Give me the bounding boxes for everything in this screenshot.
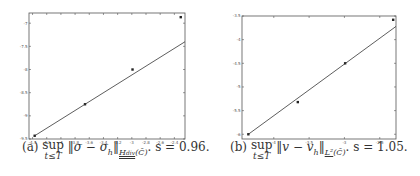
y-tick-label: -7 <box>24 21 28 26</box>
data-point <box>180 16 182 18</box>
y-tick-label: -4.5 <box>233 61 241 66</box>
plot-frame <box>29 13 185 139</box>
y-tick-label: -7.5 <box>20 44 28 49</box>
caption-a: (a) sup t≤T ‖σ − σh‖Hdiv(C̄). s = 0.96. <box>22 140 210 162</box>
plot-frame <box>242 16 396 139</box>
chart-panel-b: -4-3.5-3-2.5-3.5-4-4.5-5-5.5-6 (b) sup t… <box>210 0 420 176</box>
data-point <box>297 101 299 103</box>
sup-operator: sup t≤T <box>251 140 273 162</box>
y-tick-label: -8 <box>24 67 28 72</box>
norm-space: L² <box>325 148 334 157</box>
y-tick-label: -3.5 <box>233 13 241 18</box>
caption-b: (b) sup t≤T ‖v − vh‖L²(C̄). s = 1.05. <box>230 140 408 162</box>
norm-expression: ‖v − v <box>276 140 313 154</box>
y-tick-label: -4 <box>237 37 241 42</box>
sup-operator: sup t≤T <box>42 140 64 162</box>
caption-label: (a) <box>22 140 39 154</box>
y-tick-label: -6 <box>237 132 241 137</box>
slope-text: . s = 1.05. <box>346 140 408 154</box>
y-tick-label: -5 <box>237 84 241 89</box>
fit-line <box>35 42 185 136</box>
norm-expression: ‖σ − σ <box>68 140 108 154</box>
y-tick-label: -8.5 <box>20 90 28 95</box>
data-point <box>392 19 394 21</box>
y-tick-label: -9 <box>24 113 28 118</box>
caption-label: (b) <box>230 140 247 154</box>
norm-space: Hdiv <box>119 148 135 157</box>
fit-line <box>248 26 396 134</box>
data-point <box>131 68 133 70</box>
slope-text: . s = 0.96. <box>148 140 210 154</box>
y-tick-label: -5.5 <box>233 108 241 113</box>
chart-panel-a: -4.4-4.2-4-3.8-3.6-3.4-3.2-3-2.8-2.6-2.4… <box>0 0 210 176</box>
